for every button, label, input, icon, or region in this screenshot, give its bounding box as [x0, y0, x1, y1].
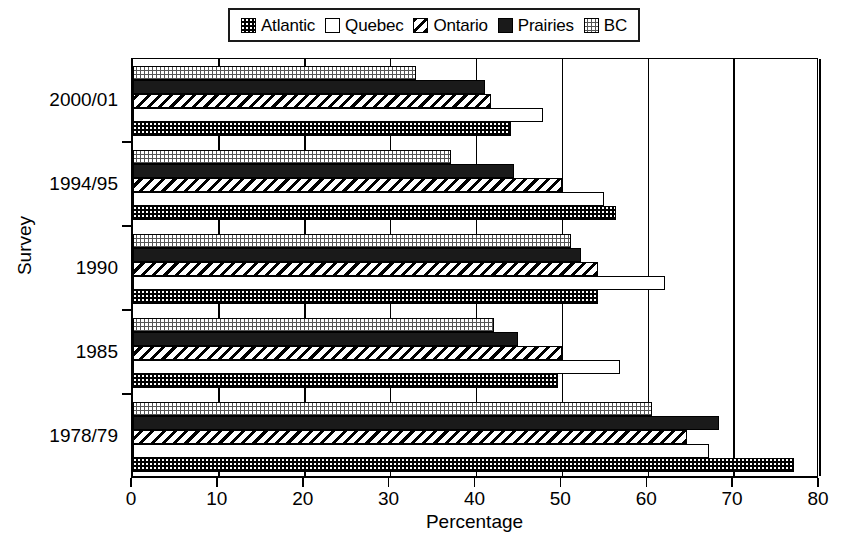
bar-prairies-2000-01: [133, 80, 485, 94]
bar-group: [133, 311, 817, 395]
x-axis-tick-label: 60: [624, 489, 668, 508]
x-axis-tick: [731, 478, 733, 487]
y-axis-tick-label: 1978/79: [49, 426, 118, 445]
x-axis-tick: [817, 478, 819, 487]
bar-bc-1990: [133, 234, 571, 248]
legend-item-bc: BC: [584, 17, 627, 34]
bar-group: [133, 227, 817, 311]
bar-ontario-2000-01: [133, 94, 491, 108]
chart-plot-area: [131, 58, 818, 478]
bar-ontario-1978-79: [133, 430, 687, 444]
bar-group: [133, 143, 817, 227]
bar-atlantic-1994-95: [133, 206, 616, 220]
x-axis-tick: [130, 478, 132, 487]
legend-label-quebec: Quebec: [345, 17, 403, 34]
legend-item-quebec: Quebec: [325, 17, 403, 34]
bar-quebec-1990: [133, 276, 665, 290]
legend-item-prairies: Prairies: [498, 17, 574, 34]
legend-item-atlantic: Atlantic: [241, 17, 315, 34]
y-axis-tick-label: 1990: [76, 258, 118, 277]
bar-prairies-1994-95: [133, 164, 514, 178]
bc-swatch-icon: [584, 18, 599, 33]
x-axis-tick: [474, 478, 476, 487]
x-axis-tick-label: 50: [538, 489, 582, 508]
bar-bc-1978-79: [133, 402, 652, 416]
y-axis-tick: [122, 393, 131, 395]
legend-label-ontario: Ontario: [433, 17, 487, 34]
y-axis-tick: [122, 309, 131, 311]
bar-bc-2000-01: [133, 66, 416, 80]
gridline: [819, 59, 821, 476]
bar-atlantic-1978-79: [133, 458, 794, 472]
legend-label-bc: BC: [604, 17, 627, 34]
bar-quebec-1985: [133, 360, 620, 374]
y-axis-title: Survey: [15, 186, 34, 306]
y-axis-tick: [122, 141, 131, 143]
bar-atlantic-2000-01: [133, 122, 511, 136]
bar-group: [133, 395, 817, 479]
legend-item-ontario: Ontario: [413, 17, 487, 34]
bar-ontario-1994-95: [133, 178, 562, 192]
x-axis-tick-label: 30: [367, 489, 411, 508]
x-axis-title: Percentage: [131, 512, 818, 531]
bar-ontario-1990: [133, 262, 598, 276]
y-axis-tick-label: 2000/01: [49, 90, 118, 109]
bar-quebec-2000-01: [133, 108, 543, 122]
chart-legend: Atlantic Quebec Ontario Prairies BC: [228, 8, 640, 42]
bar-atlantic-1990: [133, 290, 598, 304]
x-axis-tick-label: 10: [195, 489, 239, 508]
bars-layer: [133, 59, 817, 476]
y-axis-tick-label: 1994/95: [49, 174, 118, 193]
x-axis-tick: [388, 478, 390, 487]
bar-ontario-1985: [133, 346, 562, 360]
bar-bc-1985: [133, 318, 494, 332]
x-axis-tick-label: 40: [453, 489, 497, 508]
bar-atlantic-1985: [133, 374, 558, 388]
ontario-swatch-icon: [413, 18, 428, 33]
x-axis-tick: [646, 478, 648, 487]
legend-label-prairies: Prairies: [518, 17, 574, 34]
quebec-swatch-icon: [325, 18, 340, 33]
prairies-swatch-icon: [498, 18, 513, 33]
x-axis-tick-label: 20: [281, 489, 325, 508]
bar-prairies-1990: [133, 248, 581, 262]
bar-prairies-1978-79: [133, 416, 719, 430]
x-axis-tick: [216, 478, 218, 487]
bar-quebec-1978-79: [133, 444, 709, 458]
bar-quebec-1994-95: [133, 192, 604, 206]
x-axis-tick-label: 80: [796, 489, 840, 508]
y-axis-tick-label: 1985: [76, 342, 118, 361]
legend-label-atlantic: Atlantic: [261, 17, 315, 34]
x-axis-tick-label: 0: [109, 489, 153, 508]
x-axis-tick-label: 70: [710, 489, 754, 508]
y-axis-tick: [122, 225, 131, 227]
atlantic-swatch-icon: [241, 18, 256, 33]
x-axis-tick: [560, 478, 562, 487]
x-axis-tick: [302, 478, 304, 487]
bar-bc-1994-95: [133, 150, 451, 164]
bar-prairies-1985: [133, 332, 518, 346]
bar-group: [133, 59, 817, 143]
